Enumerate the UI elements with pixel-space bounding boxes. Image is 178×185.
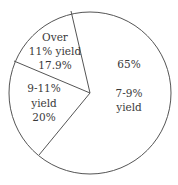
svg-text:yield: yield — [115, 101, 142, 113]
svg-text:17.9%: 17.9% — [38, 59, 71, 71]
svg-text:65%: 65% — [117, 58, 140, 70]
svg-text:7-9%: 7-9% — [116, 87, 143, 99]
svg-text:Over: Over — [42, 31, 69, 43]
svg-text:11% yield: 11% yield — [29, 45, 82, 57]
svg-text:yield: yield — [30, 97, 57, 109]
svg-text:9-11%: 9-11% — [27, 82, 61, 94]
pie-chart: Over 11% yield 17.9% 9-11% yield 20% 65%… — [0, 0, 178, 185]
svg-text:20%: 20% — [32, 111, 55, 123]
